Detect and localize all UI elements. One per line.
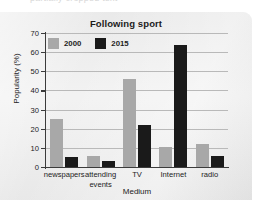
bar bbox=[65, 157, 78, 167]
bar-group bbox=[46, 33, 82, 167]
legend-swatch bbox=[95, 38, 106, 49]
bar bbox=[174, 45, 187, 168]
legend-label: 2000 bbox=[64, 39, 81, 48]
bar-group bbox=[155, 33, 191, 167]
bar bbox=[50, 119, 63, 167]
bar bbox=[87, 156, 100, 167]
x-axis-title: Medium bbox=[46, 187, 228, 196]
bar bbox=[211, 156, 224, 167]
bar-group bbox=[119, 33, 155, 167]
x-axis-tick-label: radio bbox=[186, 170, 234, 180]
x-axis-tick-label-line: radio bbox=[186, 170, 234, 180]
y-axis-tick-label: 0 bbox=[17, 163, 39, 172]
chart-legend: 20002015 bbox=[48, 36, 138, 50]
y-axis-title: Popularity (%) bbox=[12, 31, 21, 127]
bar-series-container bbox=[46, 33, 228, 167]
chart-panel: Following sport 010203040506070 Populari… bbox=[0, 12, 252, 200]
bar bbox=[196, 144, 209, 167]
x-axis-line bbox=[45, 167, 229, 168]
y-axis-tick-label: 10 bbox=[17, 143, 39, 152]
bar bbox=[123, 79, 136, 167]
cropped-text-strip: partially cropped text bbox=[0, 0, 258, 12]
bar bbox=[102, 161, 115, 167]
bar-group bbox=[82, 33, 118, 167]
bar bbox=[159, 147, 172, 167]
legend-swatch bbox=[48, 38, 59, 49]
legend-label: 2015 bbox=[111, 39, 128, 48]
bar-group bbox=[192, 33, 228, 167]
cropped-text: partially cropped text bbox=[30, 0, 117, 3]
bar bbox=[138, 125, 151, 167]
